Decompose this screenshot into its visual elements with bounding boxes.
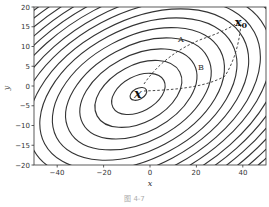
x-axis-label: x [148, 179, 153, 188]
y-tick-label: −5 [20, 102, 30, 110]
y-tick-label: 10 [21, 43, 30, 51]
x-tick-labels: −40 −20 0 20 40 [50, 169, 248, 177]
y-tick-label: 5 [26, 63, 30, 71]
figure-caption: 图 4-7 [0, 193, 269, 203]
y-axis-label: y [2, 85, 11, 91]
y-tick-label: 15 [21, 23, 30, 31]
y-tick-label: 20 [21, 4, 30, 12]
y-tick-labels: −20 −15 −10 −5 0 5 10 15 20 [15, 4, 30, 170]
y-tick-label: −15 [15, 142, 30, 150]
contour-lines [0, 0, 269, 207]
x-tick-label: 0 [148, 169, 152, 177]
x-tick-label: 20 [192, 169, 201, 177]
x-tick-label: −20 [97, 169, 112, 177]
path-b [144, 22, 241, 91]
path-a-label: A [177, 35, 184, 44]
y-tick-label: 0 [26, 83, 30, 91]
y-tick-label: −10 [15, 122, 30, 130]
y-tick-label: −20 [15, 162, 30, 170]
minimum-label: x [133, 86, 142, 101]
start-point-label: x0 [235, 16, 248, 30]
x-tick-label: 40 [239, 169, 248, 177]
x-tick-label: −40 [50, 169, 65, 177]
contour-chart: −40 −20 0 20 40 −20 −15 −10 −5 0 5 10 15… [0, 0, 269, 207]
path-b-label: B [198, 63, 204, 72]
